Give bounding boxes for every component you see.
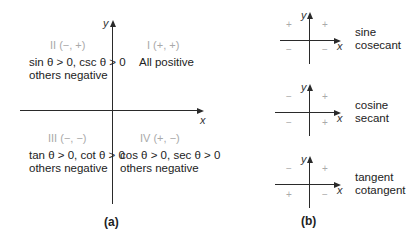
y-axis-arrow-icon	[307, 156, 313, 163]
sign-q2: −	[286, 163, 292, 174]
quadrant-iv-line1: cos θ > 0, sec θ > 0	[120, 149, 220, 162]
x-axis-label: x	[200, 114, 206, 126]
function-label: cosecant	[355, 39, 401, 52]
quadrant-iii-line1: tan θ > 0, cot θ > 0	[29, 149, 125, 162]
x-axis-label: x	[337, 184, 343, 196]
sign-q1: +	[322, 19, 328, 30]
sign-q3: −	[286, 44, 292, 55]
y-axis	[309, 18, 310, 64]
quadrant-i-line1: All positive	[139, 56, 194, 69]
y-axis	[112, 26, 113, 204]
y-axis-arrow-icon	[307, 12, 313, 19]
x-axis-label: x	[337, 40, 343, 52]
x-axis-label: x	[337, 112, 343, 124]
sign-q3: +	[286, 189, 292, 200]
y-axis	[309, 90, 310, 136]
sign-q2: +	[286, 19, 292, 30]
x-axis	[280, 40, 335, 41]
y-axis-label: y	[301, 81, 307, 93]
sign-q3: −	[286, 117, 292, 128]
quadrant-iv-title: IV (+, −)	[140, 132, 180, 144]
quadrant-iii-line2: others negative	[29, 162, 108, 175]
function-label: sine	[355, 26, 376, 39]
sign-q4: −	[322, 189, 328, 200]
quadrant-iv-line2: others negative	[120, 162, 199, 175]
quadrant-i-title: I (+, +)	[147, 39, 179, 51]
quadrant-iii-title: III (−, −)	[48, 132, 87, 144]
quadrant-ii-title: II (−, +)	[50, 39, 85, 51]
y-axis	[309, 162, 310, 208]
sign-q4: +	[322, 117, 328, 128]
x-axis	[275, 112, 335, 113]
function-label: tangent	[355, 171, 393, 184]
sign-q1: +	[322, 163, 328, 174]
caption-a: (a)	[104, 215, 119, 229]
sign-q2: −	[286, 91, 292, 102]
y-axis-arrow-icon	[307, 84, 313, 91]
function-label: cotangent	[355, 184, 406, 197]
y-axis-label: y	[301, 9, 307, 21]
sign-q4: −	[322, 44, 328, 55]
function-label: cosine	[355, 99, 388, 112]
y-axis-arrow-icon	[110, 20, 116, 27]
x-axis-arrow-icon	[197, 108, 204, 114]
function-label: secant	[355, 112, 389, 125]
quadrant-ii-line1: sin θ > 0, csc θ > 0	[29, 56, 126, 69]
y-axis-label: y	[103, 17, 109, 29]
y-axis-label: y	[301, 153, 307, 165]
sign-q1: +	[322, 91, 328, 102]
x-axis	[20, 110, 198, 111]
caption-b: (b)	[301, 214, 316, 228]
x-axis	[275, 184, 335, 185]
quadrant-ii-line2: others negative	[29, 69, 108, 82]
